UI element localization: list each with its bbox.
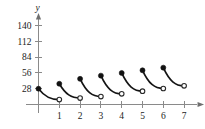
open-endpoint-marker: [57, 97, 62, 102]
y-tick-label: 112: [18, 37, 32, 47]
curve-segment: [163, 68, 184, 86]
chart-figure: yt2856841121401234567: [0, 0, 205, 129]
x-tick-label: 3: [99, 111, 104, 121]
y-tick-label: 56: [22, 68, 32, 78]
curve-segment: [80, 79, 101, 97]
x-tick-label: 1: [57, 111, 62, 121]
closed-endpoint-marker: [78, 76, 83, 81]
curve-segment: [39, 89, 60, 100]
open-endpoint-marker: [99, 94, 104, 99]
open-endpoint-marker: [161, 86, 166, 91]
x-tick-label: 7: [182, 111, 187, 121]
curve-segment: [59, 84, 80, 98]
x-tick-label: 4: [119, 111, 124, 121]
y-axis-arrow: [36, 13, 41, 20]
open-endpoint-marker: [119, 92, 124, 97]
chart-plot-area: yt2856841121401234567: [0, 0, 205, 129]
open-endpoint-marker: [182, 84, 187, 89]
x-tick-label: 2: [78, 111, 83, 121]
closed-endpoint-marker: [140, 68, 145, 73]
closed-endpoint-marker: [161, 65, 166, 70]
curve-segment: [143, 70, 164, 88]
y-tick-label: 28: [22, 84, 32, 94]
x-axis-arrow: [198, 102, 205, 107]
y-tick-label: 84: [22, 52, 32, 62]
closed-endpoint-marker: [57, 81, 62, 86]
tick-labels-group: yt2856841121401234567: [17, 3, 205, 120]
open-endpoint-marker: [140, 89, 145, 94]
closed-endpoint-marker: [36, 86, 41, 91]
y-tick-label: 140: [17, 21, 32, 31]
y-axis-name-label: y: [34, 3, 40, 13]
curve-segment: [101, 76, 122, 94]
curve-segment: [122, 73, 143, 91]
closed-endpoint-marker: [119, 70, 124, 75]
open-endpoint-marker: [78, 96, 83, 101]
closed-endpoint-marker: [98, 73, 103, 78]
x-tick-label: 6: [161, 111, 166, 121]
x-tick-label: 5: [140, 111, 145, 121]
